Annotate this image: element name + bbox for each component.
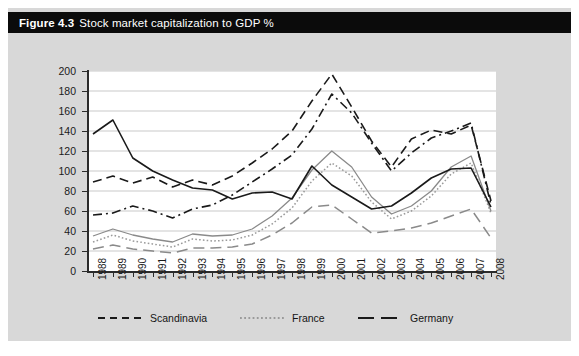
series-layer — [93, 74, 491, 253]
x-axis-tick-label: 1996 — [256, 258, 267, 280]
y-axis-tick-label: 100 — [36, 166, 76, 176]
y-axis-tick — [82, 251, 87, 252]
y-axis-line — [87, 70, 89, 272]
page-title: Stock market capitalization to GDP % — [79, 17, 274, 29]
x-axis-tick-label: 1994 — [216, 258, 227, 280]
x-axis-tick — [212, 272, 213, 277]
x-axis-tick-label: 2006 — [455, 258, 466, 280]
x-axis-tick — [272, 272, 273, 277]
y-axis-tick-label: 140 — [36, 126, 76, 136]
legend-item-scandinavia[interactable]: Scandinavia — [98, 312, 207, 324]
chart-canvas — [88, 71, 496, 271]
x-axis-tick-label: 1989 — [117, 258, 128, 280]
x-axis-tick-label: 2008 — [495, 258, 506, 280]
x-axis-tick-label: 1997 — [276, 258, 287, 280]
plot-area — [88, 71, 496, 271]
x-axis-tick — [312, 272, 313, 277]
legend-swatch-icon — [358, 312, 402, 324]
chart-body: 020406080100120140160180200 198819891990… — [8, 40, 571, 337]
y-axis-tick — [82, 211, 87, 212]
x-axis-tick — [193, 272, 194, 277]
figure-number: Figure 4.3 — [19, 17, 74, 29]
x-axis-tick-label: 1998 — [296, 258, 307, 280]
x-axis-tick — [93, 272, 94, 277]
x-axis-tick-label: 1990 — [137, 258, 148, 280]
x-axis-tick — [173, 272, 174, 277]
chart-legend: ScandinaviaFranceGermany — [40, 308, 540, 332]
legend-swatch-icon — [240, 312, 284, 324]
series-line — [93, 120, 491, 209]
series-line — [93, 163, 491, 247]
y-axis-tick-label: 80 — [36, 186, 76, 196]
legend-item-germany[interactable]: Germany — [358, 312, 453, 324]
x-axis-tick — [372, 272, 373, 277]
x-axis-tick — [113, 272, 114, 277]
y-axis-tick — [82, 71, 87, 72]
x-axis-tick — [451, 272, 452, 277]
x-axis-tick — [133, 272, 134, 277]
y-axis-tick-label: 20 — [36, 246, 76, 256]
x-axis-tick-label: 1992 — [177, 258, 188, 280]
y-axis-tick-label: 40 — [36, 226, 76, 236]
x-axis-tick-label: 2002 — [376, 258, 387, 280]
x-axis-tick — [411, 272, 412, 277]
x-axis-tick-label: 2003 — [396, 258, 407, 280]
x-axis-tick-label: 1988 — [97, 258, 108, 280]
legend-label: Germany — [410, 312, 453, 324]
legend-item-france[interactable]: France — [240, 312, 325, 324]
x-axis-tick-label: 1999 — [316, 258, 327, 280]
x-axis-tick-label: 1993 — [197, 258, 208, 280]
x-axis-tick — [431, 272, 432, 277]
series-line — [93, 151, 491, 242]
y-axis-tick — [82, 231, 87, 232]
y-axis-tick — [82, 131, 87, 132]
x-axis-tick-label: 2000 — [336, 258, 347, 280]
x-axis-tick-label: 2005 — [435, 258, 446, 280]
x-axis-tick — [352, 272, 353, 277]
figure-container: Figure 4.3 Stock market capitalization t… — [0, 0, 579, 356]
x-axis-tick — [153, 272, 154, 277]
y-axis-tick — [82, 111, 87, 112]
x-axis-tick-label: 2001 — [356, 258, 367, 280]
x-axis-tick — [252, 272, 253, 277]
y-axis-tick — [82, 91, 87, 92]
x-axis-tick — [332, 272, 333, 277]
y-axis-tick — [82, 271, 87, 272]
y-axis-tick-label: 200 — [36, 66, 76, 76]
y-axis-tick — [82, 171, 87, 172]
gridlines — [88, 71, 496, 271]
y-axis-tick-label: 120 — [36, 146, 76, 156]
figure-title-bar: Figure 4.3 Stock market capitalization t… — [8, 12, 571, 33]
legend-label: France — [292, 312, 325, 324]
x-axis-tick — [471, 272, 472, 277]
x-axis-tick — [392, 272, 393, 277]
x-axis-tick-label: 1991 — [157, 258, 168, 280]
legend-label: Scandinavia — [150, 312, 207, 324]
x-axis-tick-label: 1995 — [236, 258, 247, 280]
y-axis-tick — [82, 191, 87, 192]
y-axis-tick — [82, 151, 87, 152]
y-axis-tick-label: 180 — [36, 86, 76, 96]
series-line — [93, 205, 491, 253]
x-axis-tick — [232, 272, 233, 277]
y-axis-tick-label: 0 — [36, 266, 76, 276]
x-axis-tick — [491, 272, 492, 277]
x-axis-tick-label: 2007 — [475, 258, 486, 280]
x-axis-tick-label: 2004 — [415, 258, 426, 280]
y-axis-tick-label: 60 — [36, 206, 76, 216]
legend-swatch-icon — [98, 312, 142, 324]
y-axis-tick-label: 160 — [36, 106, 76, 116]
x-axis-tick — [292, 272, 293, 277]
